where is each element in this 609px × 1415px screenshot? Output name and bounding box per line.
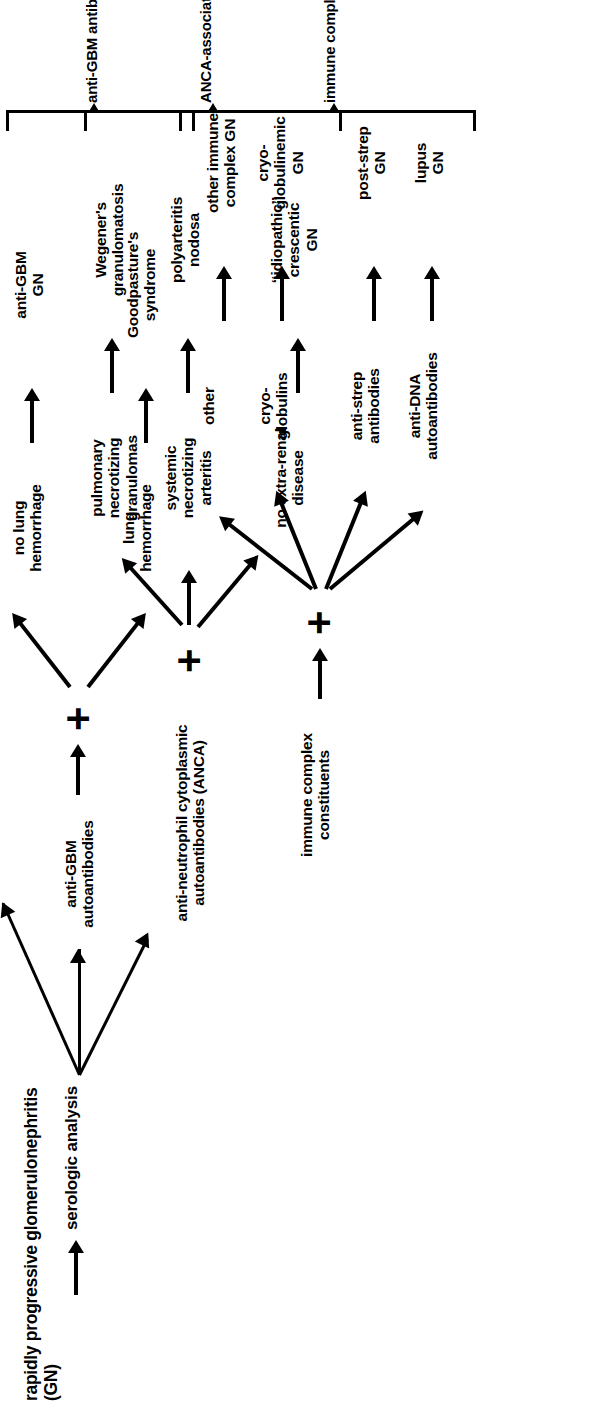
connector-root-to-anca xyxy=(78,938,149,1075)
node-anca-diagnosis-wegener: Wegener's granulomatosis xyxy=(92,155,127,325)
node-antigbm-diagnosis-antigbmgn: anti-GBM GN xyxy=(12,195,47,375)
arrow-antigbm-to-nolung xyxy=(11,611,70,687)
connector-root-to-antigbm xyxy=(78,949,81,1075)
diagram-canvas: rapidly progressive glomerulonephritis (… xyxy=(0,0,609,1415)
brace-antigbm-group xyxy=(6,110,182,131)
figure-title: rapidly progressive glomerulonephritis (… xyxy=(22,1071,61,1401)
node-antigbm-marker: anti-GBM autoantibodies xyxy=(62,799,97,949)
node-antigbm-feature-lung: lung hemorrhage xyxy=(120,453,155,603)
arrow-anca-to-norenal xyxy=(198,553,260,627)
node-anca-diagnosis-idiopathic: ‘‘idiopathic’’ crescentic GN xyxy=(268,155,320,325)
category-anca: ANCA-associated GN xyxy=(198,0,215,103)
arrow-antigbm-to-lung xyxy=(88,611,147,687)
node-serologic-analysis: serologic analysis xyxy=(62,1083,81,1233)
category-antigbm: anti-GBM antibody-mediated GN xyxy=(84,0,101,103)
node-anca-diagnosis-pan: polyarteritis nodosa xyxy=(168,155,203,325)
node-antigbm-diagnosis-goodpasture: Goodpasture's syndrome xyxy=(124,195,159,375)
plus-antigbm: + xyxy=(57,706,99,731)
node-anca-marker: anti-neutrophil cytoplasmic autoantibodi… xyxy=(173,703,208,943)
node-anca-feature-norenal: no extra-renal disease xyxy=(272,403,307,553)
node-anca-feature-systemic: systemic necrotizing arteritis xyxy=(162,403,214,553)
node-antigbm-feature-nolung: no lung hemorrhage xyxy=(10,453,45,603)
plus-anca: + xyxy=(168,648,210,673)
